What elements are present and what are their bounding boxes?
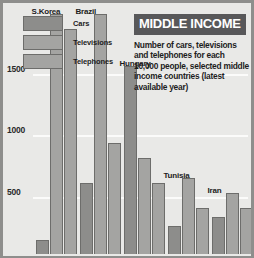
legend-label-telephones: Telephones — [73, 57, 113, 66]
bar-skorea-cars — [36, 240, 49, 254]
legend-swatch-televisions — [23, 35, 63, 50]
legend-swatch-telephones — [23, 54, 63, 69]
legend-label-televisions: Televisions — [73, 38, 112, 47]
chart-title: MIDDLE INCOME — [139, 17, 241, 31]
chart-figure: 50010001500 S.KoreaBrazilHungaryTunisiaI… — [0, 0, 254, 258]
title-block: MIDDLE INCOME Number of cars, television… — [134, 14, 250, 92]
bar-iran-televisions — [226, 193, 239, 254]
legend-item-cars: Cars — [23, 15, 113, 32]
chart-subtitle: Number of cars, televisions and telephon… — [134, 40, 250, 92]
bar-iran-cars — [212, 217, 225, 254]
bar-hungary-televisions — [138, 158, 151, 254]
legend-item-televisions: Televisions — [23, 34, 113, 51]
legend-label-cars: Cars — [73, 19, 89, 28]
legend-item-telephones: Telephones — [23, 53, 113, 70]
bar-hungary-cars — [124, 66, 137, 254]
legend-swatch-cars — [23, 16, 63, 31]
bar-tunisia-telephones — [196, 208, 209, 254]
bar-brazil-telephones — [108, 143, 121, 254]
bar-tunisia-televisions — [182, 178, 195, 254]
bar-brazil-cars — [80, 183, 93, 254]
bar-iran-telephones — [240, 208, 253, 254]
country-label-tunisia: Tunisia — [164, 171, 190, 180]
chart-legend: CarsTelevisionsTelephones — [23, 15, 113, 72]
title-banner: MIDDLE INCOME — [134, 14, 246, 35]
bar-hungary-telephones — [152, 183, 165, 254]
country-label-iran: Iran — [208, 186, 222, 195]
bar-tunisia-cars — [168, 226, 181, 254]
